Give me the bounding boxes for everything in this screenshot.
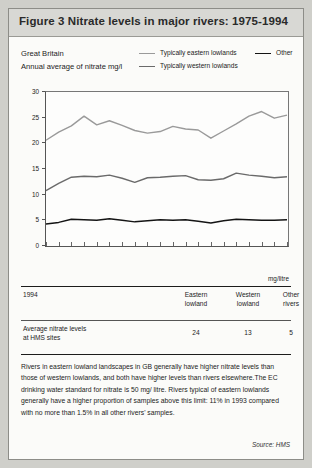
- table-row-label-line2: at HMS sites: [23, 334, 60, 341]
- legend-label-eastern: Typically eastern lowlands: [160, 49, 237, 56]
- x-tick-mark: [249, 242, 250, 246]
- x-tick-mark: [46, 242, 47, 246]
- figure-page: Figure 3 Nitrate levels in major rivers:…: [0, 0, 312, 468]
- x-tick-mark: [274, 242, 275, 246]
- legend-label-other: Other: [276, 49, 293, 56]
- x-tick-mark: [135, 242, 136, 246]
- y-tick-label: 10: [17, 190, 39, 197]
- table-header-year: 1994: [23, 291, 38, 300]
- y-tick-label: 20: [17, 139, 39, 146]
- axis-unit-label: Annual average of nitrate mg/l: [21, 62, 122, 71]
- line-chart: 051015202530: [9, 83, 303, 271]
- x-tick-mark: [173, 242, 174, 246]
- legend-swatch-eastern: [139, 53, 155, 54]
- y-tick-label: 15: [17, 165, 39, 172]
- x-tick-mark: [160, 242, 161, 246]
- table-header-eastern: Eastern lowland: [173, 291, 219, 308]
- table-header-eastern-line1: Eastern: [185, 291, 208, 298]
- figure-card: Figure 3 Nitrate levels in major rivers:…: [8, 8, 304, 460]
- y-tick-label: 25: [17, 113, 39, 120]
- table-header-western: Western lowland: [225, 291, 271, 308]
- x-tick-mark: [71, 242, 72, 246]
- table-header-western-line1: Western: [236, 291, 260, 298]
- series-typically-eastern-lowlands: [46, 112, 287, 141]
- table-header-row: 1994 Eastern lowland Western lowland Oth…: [21, 287, 291, 309]
- series-typically-western-lowlands: [46, 173, 287, 190]
- legend-swatch-western: [139, 66, 155, 67]
- y-tick-label: 0: [17, 242, 39, 249]
- table-row-label: Average nitrate levels at HMS sites: [23, 325, 86, 342]
- table-cell-other: 5: [271, 329, 311, 338]
- note-text: Rivers in eastern lowland landscapes in …: [21, 361, 291, 418]
- source-label: Source: HMS: [252, 441, 290, 448]
- x-tick-mark: [198, 242, 199, 246]
- table-header-western-line2: lowland: [237, 300, 259, 307]
- legend-swatch-other: [255, 53, 271, 54]
- table-header-other-line2: rivers: [283, 300, 299, 307]
- table-header-other: Other rivers: [271, 291, 311, 308]
- x-tick-mark: [122, 242, 123, 246]
- y-tick-label: 5: [17, 216, 39, 223]
- table-cell-western: 13: [225, 329, 271, 338]
- table-header-other-line1: Other: [283, 291, 300, 298]
- x-tick-mark: [59, 242, 60, 246]
- table-row-label-line1: Average nitrate levels: [23, 325, 86, 332]
- table-header-eastern-line2: lowland: [185, 300, 207, 307]
- x-tick-mark: [147, 242, 148, 246]
- summary-table: mg/litre 1994 Eastern lowland Western lo…: [21, 275, 291, 355]
- region-label: Great Britain: [21, 49, 64, 58]
- legend-label-western: Typically western lowlands: [160, 62, 238, 69]
- table-cell-eastern: 24: [173, 329, 219, 338]
- figure-title-bar: Figure 3 Nitrate levels in major rivers:…: [9, 9, 303, 37]
- table-rule-bottom: [21, 354, 291, 355]
- table-row: Average nitrate levels at HMS sites 24 1…: [21, 321, 291, 343]
- page-title: Figure 3 Nitrate levels in major rivers:…: [19, 15, 288, 27]
- table-unit-label: mg/litre: [268, 275, 289, 282]
- x-tick-mark: [186, 242, 187, 246]
- x-tick-mark: [97, 242, 98, 246]
- x-tick-mark: [109, 242, 110, 246]
- x-tick-mark: [262, 242, 263, 246]
- y-tick-label: 30: [17, 88, 39, 95]
- series-other: [46, 219, 287, 224]
- x-tick-mark: [84, 242, 85, 246]
- plot-area: [45, 91, 289, 247]
- x-tick-mark: [224, 242, 225, 246]
- x-tick-mark: [211, 242, 212, 246]
- x-tick-mark: [287, 242, 288, 246]
- x-tick-mark: [236, 242, 237, 246]
- series-lines: [46, 92, 288, 246]
- legend-block: Great Britain Annual average of nitrate …: [9, 37, 303, 83]
